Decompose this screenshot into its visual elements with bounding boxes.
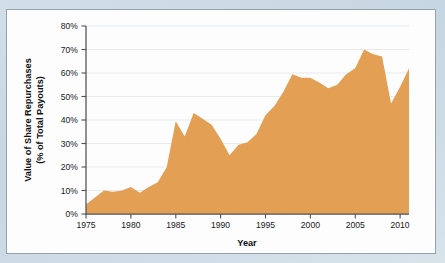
y-tick-label: 10% xyxy=(61,186,79,196)
x-axis-title: Year xyxy=(237,238,257,248)
y-tick-label: 40% xyxy=(61,115,79,125)
x-tick-label: 1975 xyxy=(76,220,95,230)
x-tick-label: 1985 xyxy=(166,220,185,230)
y-tick-labels: 80% 70% 60% 50% 40% 30% 20% 10% 0% xyxy=(61,21,79,219)
x-tick-marks xyxy=(86,214,400,219)
y-tick-label: 50% xyxy=(61,92,79,102)
area-chart: 80% 70% 60% 50% 40% 30% 20% 10% 0% xyxy=(7,10,435,253)
y-tick-marks xyxy=(82,26,87,214)
figure-background: 80% 70% 60% 50% 40% 30% 20% 10% 0% xyxy=(0,0,445,263)
x-tick-label: 1990 xyxy=(211,220,230,230)
y-tick-label: 80% xyxy=(61,21,79,31)
y-tick-label: 30% xyxy=(61,139,79,149)
x-tick-label: 1980 xyxy=(121,220,140,230)
y-axis-title-line1: Value of Share Repurchases xyxy=(23,58,33,182)
y-axis-title-line2: (% of Total Payouts) xyxy=(35,76,45,164)
y-tick-label: 70% xyxy=(61,45,79,55)
y-tick-label: 60% xyxy=(61,68,79,78)
chart-panel: 80% 70% 60% 50% 40% 30% 20% 10% 0% xyxy=(6,9,436,254)
y-tick-label: 20% xyxy=(61,162,79,172)
x-tick-labels: 1975 1980 1985 1990 1995 2000 2005 2010 xyxy=(76,220,409,230)
x-tick-label: 2000 xyxy=(301,220,320,230)
x-tick-label: 2005 xyxy=(346,220,365,230)
series-share-repurchases xyxy=(86,50,409,215)
y-tick-label: 0% xyxy=(66,209,79,219)
x-tick-label: 1995 xyxy=(256,220,275,230)
x-tick-label: 2010 xyxy=(391,220,410,230)
